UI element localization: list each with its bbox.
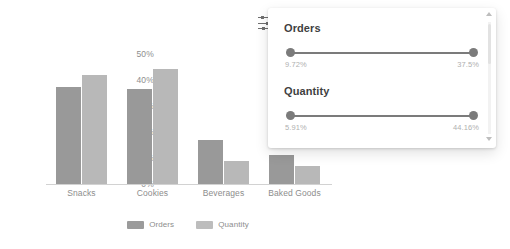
- bar-beverages-quantity[interactable]: [224, 161, 249, 184]
- filter-orders-max-handle[interactable]: [469, 48, 478, 57]
- bar-snacks-orders[interactable]: [56, 87, 81, 185]
- filter-quantity-min-handle[interactable]: [286, 111, 295, 120]
- bar-baked-goods-orders[interactable]: [269, 155, 294, 184]
- filter-quantity-max-handle[interactable]: [469, 111, 478, 120]
- bar-cookies-orders[interactable]: [127, 89, 152, 184]
- filter-quantity-values: 5.91% 44.16%: [284, 123, 480, 132]
- filter-orders-values: 9.72% 37.5%: [284, 60, 480, 69]
- filter-quantity-track[interactable]: [290, 115, 474, 117]
- filter-quantity-max-value: 44.16%: [453, 123, 479, 132]
- filter-orders-min-handle[interactable]: [286, 48, 295, 57]
- x-label-beverages: Beverages: [193, 188, 255, 198]
- scrollbar-thumb[interactable]: [488, 24, 491, 64]
- x-axis-labels: Snacks Cookies Beverages Baked Goods: [46, 188, 330, 198]
- filter-orders-max-value: 37.5%: [457, 60, 479, 69]
- filter-quantity: Quantity 5.91% 44.16%: [284, 85, 480, 132]
- filter-quantity-min-value: 5.91%: [285, 123, 307, 132]
- panel-scrollbar[interactable]: [485, 12, 494, 144]
- bar-group-snacks: [51, 54, 113, 184]
- filter-icon-dot-1: [261, 16, 264, 19]
- filter-icon-dot-3: [262, 27, 265, 30]
- x-label-baked-goods: Baked Goods: [264, 188, 326, 198]
- legend-swatch-orders-icon: [127, 221, 144, 229]
- filter-orders-track[interactable]: [290, 52, 474, 54]
- x-axis-line: [46, 184, 332, 185]
- legend-label-quantity: Quantity: [218, 220, 249, 229]
- x-label-snacks: Snacks: [51, 188, 113, 198]
- filter-orders: Orders 9.72% 37.5%: [284, 22, 480, 69]
- filter-quantity-title: Quantity: [284, 85, 480, 97]
- screen-root: 0% 10% 20% 30% 40% 50%: [0, 0, 510, 249]
- bar-snacks-quantity[interactable]: [82, 75, 107, 184]
- legend-item-orders[interactable]: Orders: [127, 220, 174, 229]
- filter-orders-range-slider[interactable]: [286, 48, 478, 58]
- filter-orders-min-value: 9.72%: [285, 60, 307, 69]
- bar-cookies-quantity[interactable]: [153, 69, 178, 184]
- bar-group-cookies: [122, 54, 184, 184]
- chart-legend: Orders Quantity: [46, 220, 330, 229]
- chevron-down-icon[interactable]: [486, 137, 493, 144]
- x-label-cookies: Cookies: [122, 188, 184, 198]
- filter-panel: Orders 9.72% 37.5% Quantity: [268, 8, 496, 148]
- legend-swatch-quantity-icon: [196, 221, 213, 229]
- filter-orders-title: Orders: [284, 22, 480, 34]
- chevron-up-icon[interactable]: [486, 12, 493, 19]
- bar-baked-goods-quantity[interactable]: [295, 166, 320, 184]
- filter-panel-body: Orders 9.72% 37.5% Quantity: [268, 8, 496, 148]
- legend-label-orders: Orders: [149, 220, 174, 229]
- legend-item-quantity[interactable]: Quantity: [196, 220, 249, 229]
- bar-beverages-orders[interactable]: [198, 140, 223, 184]
- filter-quantity-range-slider[interactable]: [286, 111, 478, 121]
- bar-group-beverages: [193, 54, 255, 184]
